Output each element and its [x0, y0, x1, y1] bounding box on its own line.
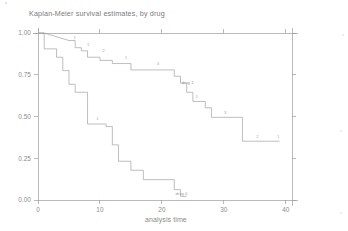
- chart-title: Kaplan-Meier survival estimates, by drug: [29, 9, 165, 18]
- curve-annotations: drug 1112141321drug 01: [73, 35, 280, 196]
- chart-axes: [33, 28, 298, 206]
- risk-annotation-1-0: 1: [96, 116, 99, 121]
- risk-annotation-0-7: 2: [256, 134, 259, 139]
- corner-speck-right-lower: [340, 212, 342, 214]
- risk-annotation-0-4: 4: [157, 61, 160, 66]
- risk-annotation-0-3: 1: [125, 55, 128, 60]
- risk-annotation-0-0: 1: [73, 35, 76, 40]
- curve-label-drug-1: drug 1: [182, 80, 195, 85]
- risk-annotation-0-8: 1: [277, 134, 280, 139]
- x-tick-label-4: 40: [282, 206, 290, 213]
- y-tick-label-4: 1.00: [18, 29, 31, 36]
- y-tick-label-2: 0.50: [18, 113, 31, 120]
- axis-ticks: [34, 29, 296, 204]
- corner-speck-right-upper: [342, 34, 344, 36]
- chart-page: Kaplan-Meier survival estimates, by drug…: [0, 0, 348, 231]
- risk-annotation-0-6: 3: [224, 110, 227, 115]
- corner-speck-topleft: [5, 2, 7, 4]
- axis-tick-labels: 0.000.250.500.751.00010203040: [18, 29, 290, 213]
- x-axis-label: analysis time: [145, 216, 187, 224]
- x-tick-label-2: 20: [158, 206, 166, 213]
- curve-label-drug-0: drug 0: [176, 191, 189, 196]
- y-tick-label-1: 0.25: [18, 155, 31, 162]
- km-curve-drug-0: [38, 33, 187, 196]
- y-tick-label-3: 0.75: [18, 71, 31, 78]
- risk-annotation-0-5: 1: [195, 94, 198, 99]
- y-tick-label-0: 0.00: [18, 196, 31, 203]
- survival-curves: [38, 33, 280, 196]
- risk-annotation-0-2: 2: [103, 48, 106, 53]
- x-tick-label-0: 0: [36, 206, 40, 213]
- x-tick-label-3: 30: [220, 206, 228, 213]
- risk-annotation-0-1: 1: [87, 42, 90, 47]
- kaplan-meier-chart: Kaplan-Meier survival estimates, by drug…: [0, 0, 348, 231]
- corner-speck-right-mid: [340, 130, 342, 132]
- x-tick-label-1: 10: [96, 206, 104, 213]
- km-curve-drug-1: [38, 33, 280, 141]
